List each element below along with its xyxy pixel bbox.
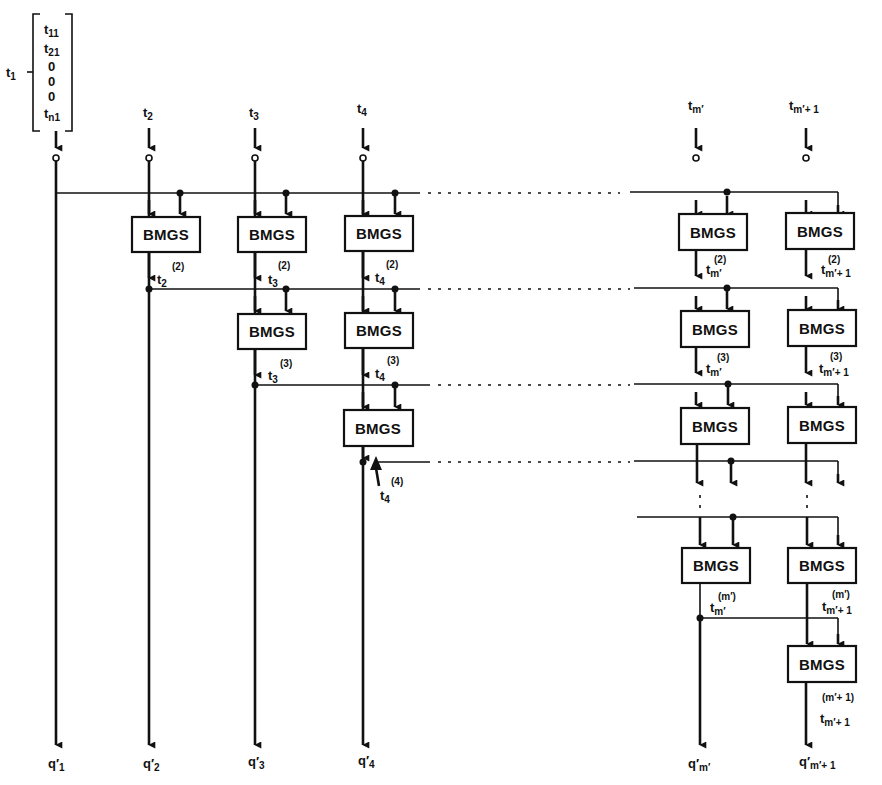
svg-text:BMGS: BMGS [797, 223, 843, 240]
output-label-q1: q′1 [48, 756, 65, 773]
intermediate-label: t4 [375, 366, 385, 383]
output-label-q3: q′3 [248, 754, 265, 771]
intermediate-sup: (3) [717, 352, 729, 363]
svg-text:BMGS: BMGS [799, 557, 845, 574]
input-label-t2: t2 [143, 105, 153, 122]
svg-text:BMGS: BMGS [799, 320, 845, 337]
broadcast-row-2 [146, 285, 839, 312]
row-1-arrows [149, 192, 838, 214]
svg-text:BMGS: BMGS [692, 418, 738, 435]
output-label-qm1: q′m′+ 1 [799, 754, 836, 771]
bmgs-block: BMGS [681, 311, 749, 347]
svg-text:BMGS: BMGS [693, 557, 739, 574]
intermediate-sup: (2) [386, 259, 398, 270]
bmgs-block: BMGS [788, 646, 856, 682]
intermediate-label: tm′+ 1 [819, 361, 849, 378]
bmgs-block: BMGS [786, 213, 854, 249]
svg-text:BMGS: BMGS [356, 322, 402, 339]
svg-text:BMGS: BMGS [249, 323, 295, 340]
intermediate-sup: (4) [391, 476, 403, 487]
bmgs-block: BMGS [132, 217, 200, 252]
bmgs-block: BMGS [681, 408, 749, 444]
input-label-t4: t4 [357, 101, 367, 118]
output-label-qm: q′m′ [688, 756, 711, 773]
bmgs-systolic-diagram: t1 t11 t21 0 0 0 tn1 t2 t3 t4 tm′ tm′+ 1 [0, 0, 882, 785]
vector-entry: t21 [44, 41, 60, 58]
intermediate-label: t2 [157, 272, 167, 289]
ellipsis-dots [700, 495, 807, 512]
vector-entry: 0 [48, 59, 55, 74]
intermediate-sup: (m′) [832, 589, 850, 600]
intermediate-sup: (2) [172, 261, 184, 272]
intermediate-sup: (3) [387, 355, 399, 366]
input-vector-t1: t1 t11 t21 0 0 0 tn1 [6, 14, 72, 131]
vector-entry: tn1 [44, 106, 60, 123]
svg-text:BMGS: BMGS [356, 225, 402, 242]
bmgs-block: BMGS [344, 410, 413, 446]
intermediate-sup: (2) [714, 254, 726, 265]
bmgs-block: BMGS [679, 214, 747, 250]
input-arrows [53, 128, 809, 161]
intermediate-sup: (m′+ 1) [822, 692, 854, 703]
broadcast-row-1 [56, 189, 838, 197]
bmgs-block: BMGS [345, 313, 413, 348]
intermediate-label: t4 [380, 488, 390, 505]
svg-text:BMGS: BMGS [355, 420, 401, 437]
intermediate-sup: (2) [828, 254, 840, 265]
bmgs-block: BMGS [788, 548, 856, 583]
input-label-tm: tm′ [688, 98, 704, 115]
bmgs-block: BMGS [345, 216, 413, 251]
intermediate-sup: (3) [830, 351, 842, 362]
intermediate-sup: (3) [280, 358, 292, 369]
bmgs-block: BMGS [788, 310, 856, 346]
broadcast-row-4 [360, 444, 839, 486]
intermediate-label: tm′+ 1 [820, 711, 850, 728]
intermediate-label: tm′+ 1 [822, 599, 852, 616]
input-label-t3: t3 [249, 105, 259, 122]
vector-entry: t11 [44, 22, 59, 39]
vector-entry: 0 [48, 89, 55, 104]
bmgs-block: BMGS [788, 407, 856, 443]
intermediate-label: t3 [268, 368, 278, 385]
vector-t1-label: t1 [6, 65, 16, 82]
input-label-tm1: tm′+ 1 [789, 98, 819, 115]
intermediate-sup: (2) [278, 260, 290, 271]
svg-text:BMGS: BMGS [692, 321, 738, 338]
output-label-q2: q′2 [143, 756, 160, 773]
svg-text:BMGS: BMGS [143, 226, 189, 243]
svg-text:BMGS: BMGS [690, 224, 736, 241]
output-label-q4: q′4 [358, 753, 375, 770]
bmgs-block: BMGS [238, 314, 306, 349]
intermediate-label: t3 [268, 272, 278, 289]
svg-text:BMGS: BMGS [799, 656, 845, 673]
bmgs-block: BMGS [238, 217, 306, 252]
intermediate-label: tm′ [710, 600, 726, 617]
bmgs-block: BMGS [682, 548, 750, 583]
svg-text:BMGS: BMGS [799, 417, 845, 434]
intermediate-sup: (m′) [718, 591, 736, 602]
broadcast-row-3 [252, 381, 839, 408]
intermediate-label: tm′ [706, 361, 722, 378]
intermediate-label: t4 [375, 270, 385, 287]
vector-entry: 0 [48, 74, 55, 89]
broadcast-row-m [637, 514, 838, 546]
svg-text:BMGS: BMGS [249, 226, 295, 243]
